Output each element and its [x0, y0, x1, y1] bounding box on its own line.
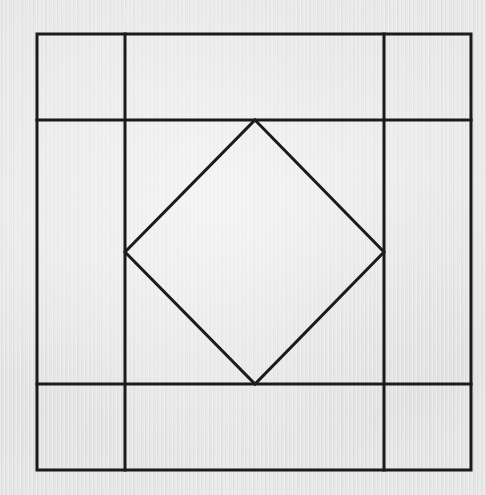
inscribed-diamond — [125, 120, 384, 384]
outer-square — [37, 34, 471, 470]
line-drawing — [0, 0, 486, 495]
figure-canvas — [0, 0, 486, 495]
